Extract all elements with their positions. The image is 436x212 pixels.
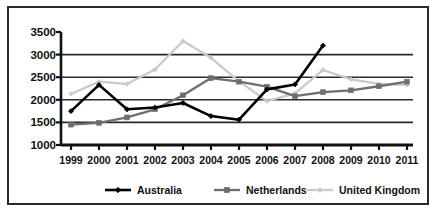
legend-marker-icon xyxy=(224,187,229,192)
legend-label: Netherlands xyxy=(246,184,307,196)
legend-item-netherlands[interactable]: Netherlands xyxy=(214,184,307,196)
y-tick-label: 2500 xyxy=(30,71,56,83)
legend-item-australia[interactable]: Australia xyxy=(105,184,182,196)
y-tick-label: 1500 xyxy=(30,116,56,128)
x-tick-label: 2006 xyxy=(255,154,279,166)
data-point-marker xyxy=(209,76,214,81)
x-tick-label: 2003 xyxy=(171,154,195,166)
x-tick-label: 2001 xyxy=(115,154,139,166)
x-tick-label: 1999 xyxy=(59,154,83,166)
x-axis-tick-labels: 1999 2000 2001 2002 2003 2004 2005 2006 … xyxy=(59,154,418,166)
x-tick-label: 2005 xyxy=(227,154,251,166)
legend-marker-icon xyxy=(317,187,322,192)
x-tick-label: 2011 xyxy=(396,154,419,166)
x-tick-label: 2002 xyxy=(143,154,167,166)
chart-figure: 3500 3000 2500 2000 1500 1000 xyxy=(0,0,436,212)
data-point-marker xyxy=(181,93,186,98)
y-tick-label: 3500 xyxy=(30,26,56,38)
x-axis xyxy=(61,145,413,150)
legend-label: United Kingdom xyxy=(339,184,420,196)
y-axis xyxy=(56,32,61,145)
data-point-marker xyxy=(97,120,102,125)
data-point-marker xyxy=(69,122,74,127)
data-point-marker xyxy=(377,84,382,89)
data-point-marker xyxy=(405,79,410,84)
x-tick-label: 2000 xyxy=(87,154,111,166)
legend-marker-icon xyxy=(115,187,121,193)
legend-item-united-kingdom[interactable]: United Kingdom xyxy=(307,184,420,196)
line-chart-plot: 3500 3000 2500 2000 1500 1000 xyxy=(9,8,427,203)
data-point-marker xyxy=(321,90,326,95)
x-tick-label: 2008 xyxy=(311,154,335,166)
x-tick-label: 2007 xyxy=(283,154,307,166)
x-tick-label: 2010 xyxy=(367,154,391,166)
y-tick-label: 3000 xyxy=(30,49,56,61)
data-point-marker xyxy=(349,88,354,93)
chart-frame: 3500 3000 2500 2000 1500 1000 xyxy=(7,6,429,205)
data-point-marker xyxy=(237,79,242,84)
legend-label: Australia xyxy=(137,184,182,196)
chart-legend: AustraliaNetherlandsUnited Kingdom xyxy=(105,184,420,196)
data-point-marker xyxy=(293,94,298,99)
y-axis-tick-labels: 3500 3000 2500 2000 1500 1000 xyxy=(30,26,56,151)
x-tick-label: 2009 xyxy=(339,154,363,166)
y-tick-label: 2000 xyxy=(30,94,56,106)
data-point-marker xyxy=(125,115,130,120)
series-united-kingdom xyxy=(69,39,410,104)
x-tick-label: 2004 xyxy=(199,154,223,166)
data-series-layer xyxy=(68,39,409,127)
series-line xyxy=(71,41,407,101)
y-tick-label: 1000 xyxy=(30,139,56,151)
